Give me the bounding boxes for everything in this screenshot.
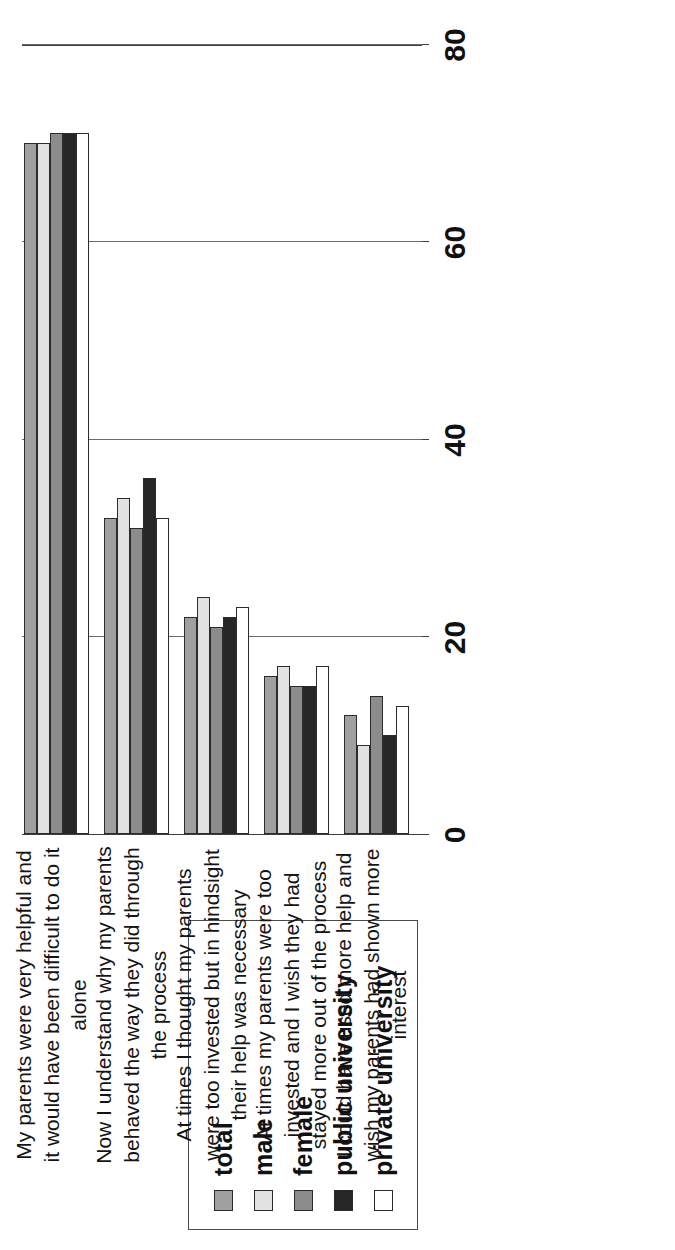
tick-20 xyxy=(422,637,429,638)
bar-total-cat3 xyxy=(184,617,197,834)
category-label: I could have used more help and wish my … xyxy=(330,834,413,1164)
bar-group: Now I understand why my parents behaved … xyxy=(104,44,169,834)
bar-private-university-cat3 xyxy=(236,607,249,834)
bar-public-university-cat3 xyxy=(223,617,236,834)
bar-group: I could have used more help and wish my … xyxy=(344,44,409,834)
axis-tick-label-0: 0 xyxy=(438,827,472,844)
bar-female-cat5 xyxy=(370,696,383,834)
bar-private-university-cat1 xyxy=(76,133,89,834)
tick-0 xyxy=(422,834,429,835)
bar-female-cat3 xyxy=(210,627,223,834)
bar-private-university-cat2 xyxy=(156,518,169,834)
axis-tick-label-80: 80 xyxy=(438,28,472,61)
rotated-figure-stage: total male female public university priv… xyxy=(0,0,675,1250)
axis-tick-label-20: 20 xyxy=(438,621,472,654)
tick-60 xyxy=(422,242,429,243)
legend-swatch-private-university xyxy=(374,1190,393,1211)
bar-private-university-cat4 xyxy=(316,666,329,834)
category-label: Now I understand why my parents behaved … xyxy=(90,834,173,1164)
bar-male-cat2 xyxy=(117,498,130,834)
plot-area: 020406080My parents were very helpful an… xyxy=(22,45,422,835)
axis-tick-label-40: 40 xyxy=(438,423,472,456)
bar-female-cat2 xyxy=(130,528,143,834)
bar-female-cat1 xyxy=(50,133,63,834)
bar-male-cat4 xyxy=(277,666,290,834)
bar-male-cat1 xyxy=(37,143,50,834)
bar-public-university-cat2 xyxy=(143,479,156,835)
tick-80 xyxy=(422,44,429,45)
bar-male-cat5 xyxy=(357,745,370,834)
bar-group: My parents were very helpful and it woul… xyxy=(24,44,89,834)
category-label: At times I thought my parents were too i… xyxy=(170,834,253,1164)
category-label: My parents were very helpful and it woul… xyxy=(10,834,93,1164)
bar-chart: 020406080My parents were very helpful an… xyxy=(0,10,675,835)
bar-total-cat1 xyxy=(24,143,37,834)
bar-male-cat3 xyxy=(197,597,210,834)
legend-swatch-male xyxy=(254,1190,273,1211)
tick-40 xyxy=(422,439,429,440)
bar-total-cat2 xyxy=(104,518,117,834)
bar-female-cat4 xyxy=(290,686,303,834)
bar-public-university-cat5 xyxy=(383,735,396,834)
bar-total-cat4 xyxy=(264,676,277,834)
bar-group: At times my parents were too invested an… xyxy=(264,44,329,834)
bar-public-university-cat1 xyxy=(63,133,76,834)
legend-swatch-total xyxy=(214,1190,233,1211)
bar-private-university-cat5 xyxy=(396,706,409,834)
category-label: At times my parents were too invested an… xyxy=(250,834,333,1164)
bar-public-university-cat4 xyxy=(303,686,316,834)
bar-total-cat5 xyxy=(344,716,357,835)
bar-group: At times I thought my parents were too i… xyxy=(184,44,249,834)
legend-swatch-female xyxy=(294,1190,313,1211)
legend-swatch-public-university xyxy=(334,1190,353,1211)
axis-tick-label-60: 60 xyxy=(438,226,472,259)
